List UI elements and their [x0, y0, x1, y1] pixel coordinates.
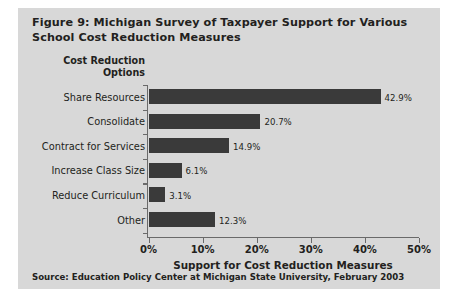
y-axis-tick: [143, 85, 148, 86]
x-axis-tick-label: 30%: [291, 244, 331, 255]
figure-panel: Figure 9: Michigan Survey of Taxpayer Su…: [18, 8, 440, 289]
y-axis-tick: [143, 183, 148, 184]
x-axis-tick: [419, 238, 420, 243]
x-axis-tick-label: 40%: [345, 244, 385, 255]
x-axis-title: Support for Cost Reduction Measures: [147, 259, 419, 271]
x-axis-line: [147, 237, 419, 238]
x-axis-tick-label: 50%: [399, 244, 439, 255]
category-label: Consolidate: [24, 116, 145, 127]
category-label: Share Resources: [24, 92, 145, 103]
category-label: Other: [24, 215, 145, 226]
bar-value-label: 14.9%: [233, 142, 260, 152]
x-axis-tick-label: 20%: [237, 244, 277, 255]
bar: [149, 89, 381, 104]
y-axis-tick: [143, 110, 148, 111]
category-label: Contract for Services: [24, 141, 145, 152]
y-axis-tick: [143, 134, 148, 135]
bar-value-label: 6.1%: [186, 166, 208, 176]
x-axis-tick-label: 10%: [183, 244, 223, 255]
bar-value-label: 20.7%: [264, 117, 291, 127]
bar-value-label: 12.3%: [219, 216, 246, 226]
bar: [149, 138, 230, 153]
y-axis-tick: [143, 159, 148, 160]
x-axis-tick: [203, 238, 204, 243]
bar-value-label: 3.1%: [169, 191, 191, 201]
category-label: Reduce Curriculum: [24, 190, 145, 201]
chart-plot-area: Share Resources42.9%Consolidate20.7%Cont…: [18, 8, 440, 289]
bar-value-label: 42.9%: [385, 93, 412, 103]
x-axis-tick: [311, 238, 312, 243]
category-label: Increase Class Size: [24, 165, 145, 176]
x-axis-tick: [149, 238, 150, 243]
bar: [149, 114, 261, 129]
x-axis-tick: [257, 238, 258, 243]
bar: [149, 187, 166, 202]
y-axis-tick: [143, 208, 148, 209]
bar: [149, 163, 182, 178]
bar: [149, 212, 216, 227]
source-note: Source: Education Policy Center at Michi…: [32, 272, 404, 282]
x-axis-tick: [365, 238, 366, 243]
x-axis-tick-label: 0%: [129, 244, 169, 255]
y-axis-tick: [143, 233, 148, 234]
